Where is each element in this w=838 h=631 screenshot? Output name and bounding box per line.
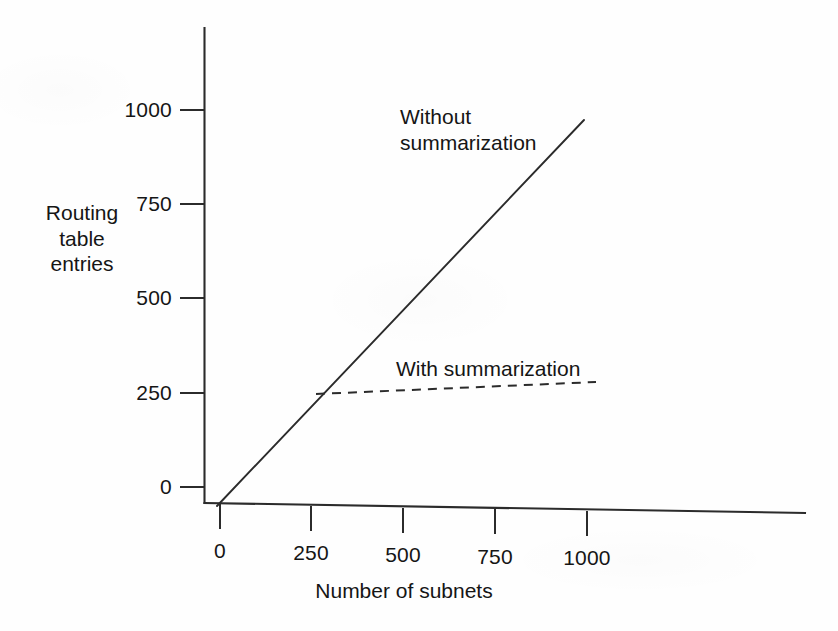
x-tick-label-1000: 1000 — [547, 546, 627, 570]
y-tick-label-1000: 1000 — [80, 98, 172, 122]
x-tick-label-750: 750 — [455, 545, 535, 569]
series-line-with-summarization — [316, 382, 596, 394]
chart-figure: 1000 750 500 250 0 0 250 500 750 1000 Ro… — [0, 0, 838, 631]
y-tick-label-0: 0 — [80, 475, 172, 499]
x-axis-line — [205, 503, 806, 513]
y-tick-label-250: 250 — [80, 381, 172, 405]
x-axis-title: Number of subnets — [284, 578, 524, 604]
chart-plot-area — [0, 0, 838, 631]
annotation-with-summarization: With summarization — [396, 356, 580, 382]
y-tick-label-500: 500 — [80, 286, 172, 310]
x-tick-label-250: 250 — [271, 541, 351, 565]
y-axis-title: Routing table entries — [22, 200, 142, 277]
x-tick-label-500: 500 — [363, 543, 443, 567]
series-line-without-summarization — [217, 120, 584, 506]
x-tick-label-0: 0 — [180, 539, 260, 563]
annotation-without-summarization: Without summarization — [400, 104, 537, 155]
